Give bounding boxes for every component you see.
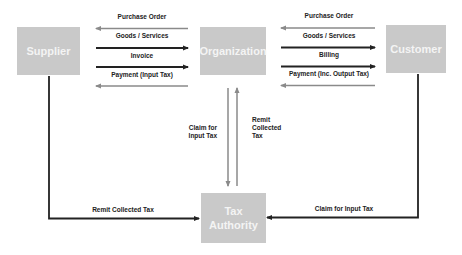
supplier-node: Supplier xyxy=(17,27,80,75)
tax-authority-label-line1: Tax xyxy=(224,204,242,218)
tax-authority-node: Tax Authority xyxy=(201,193,266,243)
flow-label-purchase-order-left: Purchase Order xyxy=(118,13,167,21)
flow-label-purchase-order-right: Purchase Order xyxy=(305,12,354,20)
organization-node: Organization xyxy=(200,27,266,75)
flow-label-remit-collected-tax: Remit Collected Tax xyxy=(252,116,281,140)
customer-label: Customer xyxy=(390,42,441,56)
flow-label-payment-output-tax: Payment (Inc. Output Tax) xyxy=(289,70,369,78)
flow-label-claim-input-tax: Claim for Input Tax xyxy=(186,124,217,140)
supplier-label: Supplier xyxy=(26,44,70,58)
arrow-customer-claim-tax xyxy=(267,74,418,218)
flow-label-invoice: Invoice xyxy=(131,52,153,60)
flow-label-goods-right: Goods / Services xyxy=(303,32,356,40)
flow-label-supplier-remit-tax: Remit Collected Tax xyxy=(92,206,154,214)
flow-label-goods-left: Goods / Services xyxy=(116,32,169,40)
organization-label: Organization xyxy=(199,44,266,58)
flow-label-payment-input-tax: Payment (Input Tax) xyxy=(111,71,173,79)
flow-label-billing: Billing xyxy=(319,51,339,59)
tax-authority-label-line2: Authority xyxy=(209,218,258,232)
customer-node: Customer xyxy=(386,25,446,73)
flow-label-customer-claim-tax: Claim for Input Tax xyxy=(315,205,373,213)
arrow-supplier-remit-tax xyxy=(49,76,199,219)
